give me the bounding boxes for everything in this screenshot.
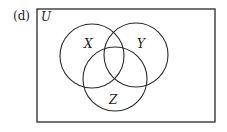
panel-label: (d) [13, 9, 30, 23]
venn-diagram: (d) U X Y Z [0, 0, 227, 132]
set-x-label: X [83, 37, 93, 51]
universe-label: U [41, 10, 52, 24]
set-z-label: Z [108, 93, 118, 107]
set-y-label: Y [137, 37, 146, 51]
universe-rectangle [37, 9, 215, 122]
